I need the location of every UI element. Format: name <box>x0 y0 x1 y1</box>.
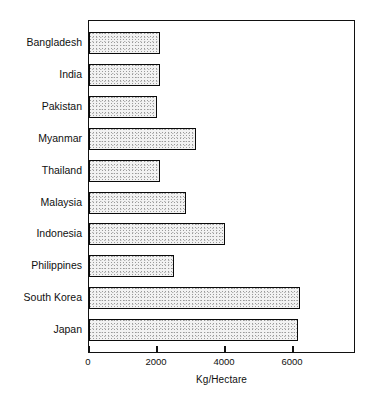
x-tick-label-2000: 2000 <box>136 356 176 367</box>
bar-malaysia <box>89 192 186 214</box>
category-label-pakistan: Pakistan <box>0 100 82 112</box>
category-axis-labels: BangladeshIndiaPakistanMyanmarThailandMa… <box>0 20 82 353</box>
x-tick-mark-0 <box>88 346 89 352</box>
bar-indonesia <box>89 223 225 245</box>
bars-container <box>89 21 354 352</box>
x-tick-label-0: 0 <box>68 356 108 367</box>
category-label-south-korea: South Korea <box>0 291 82 303</box>
bar-philippines <box>89 255 174 277</box>
category-label-thailand: Thailand <box>0 164 82 176</box>
bar-myanmar <box>89 128 196 150</box>
category-label-bangladesh: Bangladesh <box>0 36 82 48</box>
category-label-philippines: Philippines <box>0 259 82 271</box>
bar-pakistan <box>89 96 157 118</box>
x-axis-title: Kg/Hectare <box>88 374 355 385</box>
bar-bangladesh <box>89 32 160 54</box>
category-label-india: India <box>0 68 82 80</box>
x-tick-label-6000: 6000 <box>272 356 312 367</box>
bar-india <box>89 64 160 86</box>
plot-area <box>88 20 355 353</box>
x-tick-mark-2000 <box>156 346 157 352</box>
x-tick-label-4000: 4000 <box>204 356 244 367</box>
category-label-indonesia: Indonesia <box>0 227 82 239</box>
category-label-myanmar: Myanmar <box>0 132 82 144</box>
chart-figure: BangladeshIndiaPakistanMyanmarThailandMa… <box>0 0 373 404</box>
x-tick-mark-6000 <box>292 346 293 352</box>
bar-thailand <box>89 160 160 182</box>
x-tick-mark-4000 <box>224 346 225 352</box>
bar-south-korea <box>89 287 300 309</box>
category-label-japan: Japan <box>0 323 82 335</box>
category-label-malaysia: Malaysia <box>0 196 82 208</box>
bar-japan <box>89 319 298 341</box>
